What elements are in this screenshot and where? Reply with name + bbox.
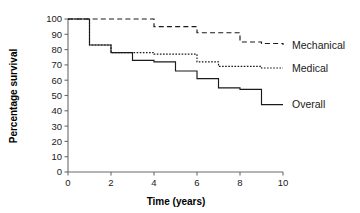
y-tick-label: 40 — [51, 105, 62, 116]
y-tick-label: 70 — [51, 59, 62, 70]
y-tick-label: 20 — [51, 136, 62, 147]
x-axis: 0246810 — [65, 172, 288, 188]
x-tick-label: 6 — [194, 177, 199, 188]
legend-label-overall: Overall — [292, 98, 325, 110]
y-axis: 0102030405060708090100 — [46, 13, 68, 177]
x-tick-label: 10 — [278, 177, 289, 188]
y-tick-label: 30 — [51, 121, 62, 132]
chart-legend: MechanicalMedicalOverall — [292, 39, 345, 111]
chart-canvas: 0102030405060708090100 0246810 Mechanica… — [0, 0, 360, 213]
y-tick-label: 50 — [51, 90, 62, 101]
y-tick-label: 60 — [51, 75, 62, 86]
x-axis-title: Time (years) — [147, 196, 206, 207]
x-tick-label: 0 — [65, 177, 70, 188]
y-tick-label: 100 — [46, 13, 62, 24]
series-line-mechanical — [68, 19, 283, 45]
y-axis-title: Percentage survival — [8, 49, 19, 144]
y-tick-label: 0 — [57, 166, 62, 177]
x-tick-label: 2 — [108, 177, 113, 188]
survival-chart: 0102030405060708090100 0246810 Mechanica… — [0, 0, 360, 213]
y-tick-label: 80 — [51, 44, 62, 55]
series-layer — [68, 19, 283, 105]
legend-label-mechanical: Mechanical — [292, 39, 345, 51]
y-tick-label: 90 — [51, 29, 62, 40]
y-tick-label: 10 — [51, 151, 62, 162]
series-line-overall — [68, 19, 283, 105]
x-tick-label: 4 — [151, 177, 156, 188]
x-tick-label: 8 — [237, 177, 242, 188]
legend-label-medical: Medical — [292, 62, 328, 74]
